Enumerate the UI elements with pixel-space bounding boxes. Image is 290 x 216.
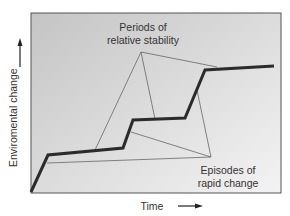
y-axis-label: Enviromental change — [7, 68, 19, 167]
episodes-label-line1: Episodes of — [201, 164, 256, 176]
x-axis-label: Time — [141, 200, 164, 212]
episodes-label-line2: rapid change — [198, 177, 259, 189]
y-axis-label-group: Enviromental change — [7, 68, 19, 167]
y-axis-arrow-icon — [18, 38, 23, 67]
stability-label-line1: Periods of — [119, 21, 166, 33]
step-diagram: Periods of relative stability Episodes o… — [0, 0, 290, 216]
x-axis-arrow-icon — [178, 204, 203, 209]
stability-label-line2: relative stability — [107, 34, 180, 46]
